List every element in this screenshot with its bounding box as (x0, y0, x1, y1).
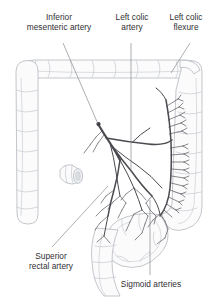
bowel-stump (60, 165, 83, 184)
label-sigmoid-arteries: Sigmoid arteries (104, 279, 198, 289)
ima-proximal-branches (84, 131, 104, 153)
label-left-colic-artery: Left colic artery (104, 12, 160, 32)
label-inferior-mesenteric-artery: Inferior mesenteric artery (7, 12, 111, 32)
marginal-artery (156, 88, 171, 216)
transverse-colon (24, 60, 196, 78)
sigmoid-colon (106, 213, 168, 267)
label-superior-rectal-artery: Superior rectal artery (8, 251, 94, 271)
ascending-colon (16, 60, 38, 224)
leader-inferior-mesenteric-artery (63, 43, 98, 124)
left-colic-artery (106, 128, 172, 145)
label-left-colic-flexure: Left colic flexure (158, 12, 214, 32)
